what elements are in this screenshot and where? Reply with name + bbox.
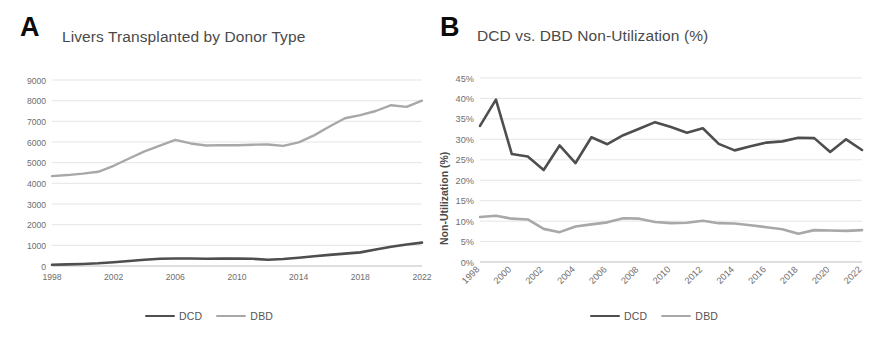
y-tick-label: 15% (456, 196, 474, 206)
legend-line-dbd-icon (661, 315, 691, 318)
figure-container: A Livers Transplanted by Donor Type 0100… (0, 0, 878, 342)
panel-b-svg: 0%5%10%15%20%25%30%35%40%45% 19982000200… (432, 66, 878, 296)
panel-a-svg: 0100020003000400050006000700080009000 19… (0, 70, 432, 290)
y-tick-label: 35% (456, 114, 474, 124)
x-tick-label: 2014 (715, 264, 737, 286)
panel-b-x-tick-labels: 1998200020022004200620082010201220142016… (460, 264, 864, 286)
legend-label-dbd: DBD (695, 310, 718, 322)
panel-b-gridlines (480, 78, 862, 262)
y-tick-label: 1000 (27, 241, 46, 251)
y-tick-label: 25% (456, 155, 474, 165)
y-tick-label: 9000 (27, 76, 46, 86)
panel-b-legend: DCDDBD (590, 310, 718, 322)
y-tick-label: 0 (41, 262, 46, 272)
x-tick-label: 2002 (104, 272, 123, 282)
x-tick-label: 2004 (555, 264, 577, 286)
legend-label-dcd: DCD (624, 310, 647, 322)
panel-a-legend: DCD DBD (145, 310, 273, 322)
panel-b-title: DCD vs. DBD Non-Utilization (%) (477, 27, 708, 45)
panel-a: A Livers Transplanted by Donor Type 0100… (0, 0, 432, 342)
y-tick-label: 3000 (27, 200, 46, 210)
x-tick-label: 2008 (619, 264, 641, 286)
x-tick-label: 2012 (683, 264, 705, 286)
legend-item-dcd: DCD (590, 310, 647, 322)
panel-a-series-dcd (52, 243, 422, 265)
legend-label-dbd: DBD (250, 310, 273, 322)
legend-line-dbd-icon (216, 315, 246, 318)
x-tick-label: 2006 (166, 272, 185, 282)
panel-b-y-tick-labels: 0%5%10%15%20%25%30%35%40%45% (456, 74, 474, 268)
x-tick-label: 2022 (412, 272, 431, 282)
y-tick-label: 10% (456, 217, 474, 227)
x-tick-label: 2010 (651, 264, 673, 286)
panel-a-series-dbd (52, 101, 422, 176)
legend-line-dcd-icon (590, 315, 620, 318)
x-tick-label: 2006 (587, 264, 609, 286)
y-tick-label: 2000 (27, 220, 46, 230)
panel-a-title: Livers Transplanted by Donor Type (62, 28, 305, 46)
legend-item-dbd: DBD (216, 310, 273, 322)
panel-b-plot: 0%5%10%15%20%25%30%35%40%45% 19982000200… (432, 66, 878, 296)
panel-a-letter: A (20, 14, 40, 41)
panel-a-plot: 0100020003000400050006000700080009000 19… (0, 70, 432, 290)
legend-label-dcd: DCD (179, 310, 202, 322)
y-tick-label: 40% (456, 94, 474, 104)
x-tick-label: 2014 (289, 272, 308, 282)
panel-b-letter: B (440, 14, 460, 41)
y-tick-label: 6000 (27, 138, 46, 148)
legend-line-dcd-icon (145, 315, 175, 318)
x-tick-label: 2022 (842, 264, 864, 286)
x-tick-label: 2020 (810, 264, 832, 286)
y-tick-label: 8000 (27, 96, 46, 106)
panel-a-gridlines (52, 80, 422, 266)
x-tick-label: 1998 (460, 264, 482, 286)
panel-b-y-axis-title: Non-Utilization (%) (438, 152, 450, 245)
panel-a-x-tick-labels: 1998200220062010201420182022 (42, 272, 431, 282)
legend-item-dbd: DBD (661, 310, 718, 322)
y-tick-label: 5% (461, 237, 474, 247)
x-tick-label: 2010 (227, 272, 246, 282)
x-tick-label: 2018 (778, 264, 800, 286)
y-tick-label: 20% (456, 176, 474, 186)
legend-item-dcd: DCD (145, 310, 202, 322)
x-tick-label: 1998 (42, 272, 61, 282)
panel-b-series-dbd (480, 216, 862, 234)
y-tick-label: 45% (456, 74, 474, 84)
y-tick-label: 4000 (27, 179, 46, 189)
x-tick-label: 2018 (351, 272, 370, 282)
y-tick-label: 30% (456, 135, 474, 145)
x-tick-label: 2016 (746, 264, 768, 286)
panel-b: B DCD vs. DBD Non-Utilization (%) 0%5%10… (432, 0, 878, 342)
y-tick-label: 7000 (27, 117, 46, 127)
y-tick-label: 5000 (27, 158, 46, 168)
panel-a-y-tick-labels: 0100020003000400050006000700080009000 (27, 76, 46, 272)
x-tick-label: 2000 (492, 264, 514, 286)
x-tick-label: 2002 (524, 264, 546, 286)
